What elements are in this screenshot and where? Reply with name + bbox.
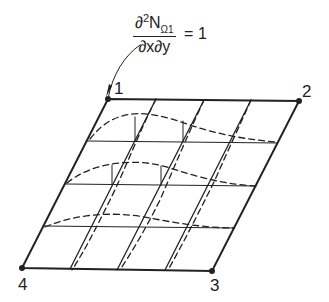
formula: ∂2NΩ1 ∂x∂y = 1 (133, 12, 207, 56)
node-1 (105, 96, 111, 102)
node-label-2: 2 (302, 83, 311, 100)
node-label-4: 4 (18, 276, 27, 293)
node-3 (209, 268, 215, 274)
node-label-1: 1 (114, 80, 123, 97)
node-4 (19, 265, 25, 271)
node-label-3: 3 (210, 277, 219, 294)
